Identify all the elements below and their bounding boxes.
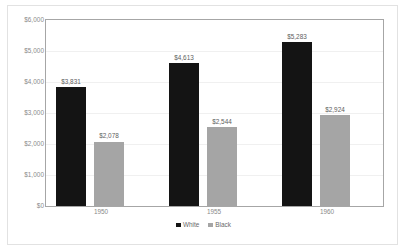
x-axis-tick-1960: 1960 (282, 209, 372, 215)
bar-white-1955[interactable] (169, 63, 199, 206)
legend-label-black: Black (215, 222, 231, 228)
y-axis-tick: $6,000 (8, 17, 44, 23)
bar-black-1960[interactable] (320, 115, 350, 206)
bar-label-black-1955: $2,544 (196, 119, 248, 125)
legend-item-black[interactable]: Black (208, 222, 231, 228)
chart-legend: White Black (8, 222, 399, 228)
bar-label-white-1955: $4,613 (158, 55, 210, 61)
bar-chart-figure: $6,000 $5,000 $4,000 $3,000 $2,000 $1,00… (7, 5, 398, 245)
y-axis-tick: $3,000 (8, 110, 44, 116)
bar-label-white-1950: $3,831 (45, 79, 97, 85)
y-axis: $6,000 $5,000 $4,000 $3,000 $2,000 $1,00… (8, 6, 44, 207)
bar-group-1960: $5,283 $2,924 (272, 20, 385, 206)
legend-label-white: White (183, 222, 199, 228)
y-axis-tick: $0 (8, 203, 44, 209)
y-axis-tick: $4,000 (8, 79, 44, 85)
y-axis-tick: $1,000 (8, 172, 44, 178)
plot-area: $3,831 $2,078 $4,613 $2,544 $5,283 $2,92… (45, 19, 384, 207)
bars-layer: $3,831 $2,078 $4,613 $2,544 $5,283 $2,92… (46, 20, 383, 206)
bar-black-1950[interactable] (94, 142, 124, 206)
legend-item-white[interactable]: White (176, 222, 199, 228)
x-axis-tick-1950: 1950 (56, 209, 146, 215)
bar-white-1960[interactable] (282, 42, 312, 206)
x-axis-tick-1955: 1955 (169, 209, 259, 215)
bar-black-1955[interactable] (207, 127, 237, 206)
y-axis-tick: $5,000 (8, 48, 44, 54)
bar-label-black-1950: $2,078 (83, 133, 135, 139)
legend-swatch-icon (208, 223, 213, 228)
legend-swatch-icon (176, 223, 181, 228)
y-axis-tick: $2,000 (8, 141, 44, 147)
bar-group-1955: $4,613 $2,544 (159, 20, 272, 206)
bar-white-1950[interactable] (56, 87, 86, 206)
bar-group-1950: $3,831 $2,078 (46, 20, 159, 206)
bar-label-white-1960: $5,283 (271, 34, 323, 40)
bar-label-black-1960: $2,924 (309, 107, 361, 113)
